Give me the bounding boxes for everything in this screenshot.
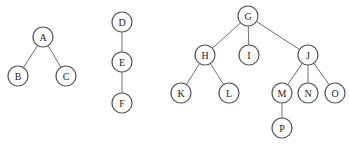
node-a: A	[33, 27, 53, 47]
edge-a-c	[48, 46, 61, 68]
node-label: O	[331, 88, 338, 99]
node-b: B	[8, 66, 28, 86]
node-m: M	[272, 83, 292, 103]
edge-j-m	[288, 63, 303, 84]
node-h: H	[195, 45, 215, 65]
node-f: F	[112, 93, 132, 113]
node-o: O	[325, 83, 345, 103]
node-label: M	[278, 88, 287, 99]
node-e: E	[112, 52, 132, 72]
node-p: P	[272, 118, 292, 138]
node-c: C	[56, 66, 76, 86]
tree-forest-diagram: ABCDEFGHIJKLMNOP	[0, 0, 349, 145]
nodes-layer: ABCDEFGHIJKLMNOP	[8, 6, 345, 138]
node-label: G	[244, 11, 251, 22]
node-label: N	[304, 88, 311, 99]
node-i: I	[239, 45, 259, 65]
edge-g-j	[256, 21, 299, 49]
node-label: B	[15, 71, 22, 82]
node-label: H	[201, 50, 208, 61]
node-j: J	[298, 45, 318, 65]
node-label: K	[177, 88, 185, 99]
node-d: D	[112, 12, 132, 32]
node-l: L	[219, 83, 239, 103]
node-n: N	[298, 83, 318, 103]
node-label: P	[279, 123, 285, 134]
node-label: I	[247, 50, 250, 61]
edge-h-k	[186, 63, 199, 84]
edge-g-h	[212, 23, 240, 49]
node-label: D	[118, 17, 125, 28]
node-label: C	[63, 71, 70, 82]
edge-h-l	[210, 63, 223, 84]
edge-j-o	[314, 63, 329, 85]
diagram-canvas: ABCDEFGHIJKLMNOP	[0, 0, 349, 145]
node-label: E	[119, 57, 125, 68]
node-label: L	[226, 88, 232, 99]
node-g: G	[238, 6, 258, 26]
node-label: F	[119, 98, 125, 109]
node-k: K	[171, 83, 191, 103]
node-label: J	[306, 50, 310, 61]
node-label: A	[39, 32, 47, 43]
edge-a-b	[23, 45, 37, 67]
